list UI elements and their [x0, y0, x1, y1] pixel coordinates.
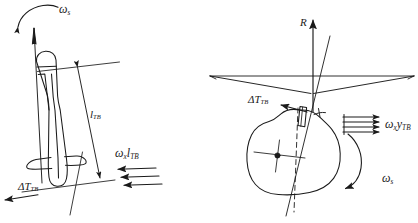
body-tilt-axis — [286, 36, 330, 216]
delta-thrust-arrow — [5, 195, 38, 200]
left-spin-rate-label: ωs — [59, 3, 70, 17]
right-spin-rate-label: ωs — [382, 172, 393, 186]
rocket-nose-cap-line — [37, 66, 56, 67]
transverse-velocity-arrow-1 — [118, 168, 156, 169]
spin-arc-arrow — [18, 5, 58, 27]
right-view-group — [210, 20, 414, 216]
transverse-velocity-arrow-2 — [121, 176, 159, 177]
right-delta-thrust-label: ΔTTB — [248, 94, 268, 106]
rocket-body-inner-left-edge — [38, 74, 49, 110]
spin-direction-arc-arrow — [346, 134, 362, 189]
left-delta-thrust-label: ΔTTB — [18, 181, 38, 193]
right-cross-flow-label: ωxyTB — [385, 118, 411, 132]
body-vertical-dashed-axis — [294, 108, 298, 212]
technical-diagram-figure: ωs lTB ωxlTB ΔTTB R ΔTTB ωxyTB ωs — [0, 0, 418, 223]
left-length-label: lTB — [90, 109, 101, 121]
wing-left-edge — [210, 76, 311, 94]
body-cross-section-outline — [247, 109, 340, 195]
fin-right — [65, 156, 87, 165]
right-resultant-label: R — [300, 17, 307, 29]
center-of-gravity-axis — [70, 152, 83, 215]
diagram-canvas — [0, 0, 418, 223]
body-axis-arrow-head — [32, 28, 36, 44]
left-transverse-velocity-label: ωxlTB — [115, 147, 139, 161]
transverse-velocity-arrow-3 — [124, 184, 162, 185]
wing-right-edge — [314, 76, 415, 94]
